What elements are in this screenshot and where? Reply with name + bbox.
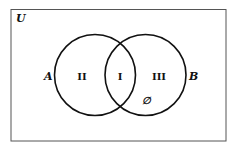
set-a-circle: [55, 35, 136, 116]
region-iii-label: III: [152, 71, 166, 82]
universe-label: U: [16, 12, 27, 25]
venn-diagram: U A B II I III ∅: [0, 0, 237, 149]
region-i-label: I: [118, 71, 123, 82]
set-a-label: A: [43, 70, 53, 83]
set-b-label: B: [188, 70, 198, 83]
empty-set-marker: ∅: [142, 95, 152, 106]
region-ii-label: II: [77, 71, 87, 82]
